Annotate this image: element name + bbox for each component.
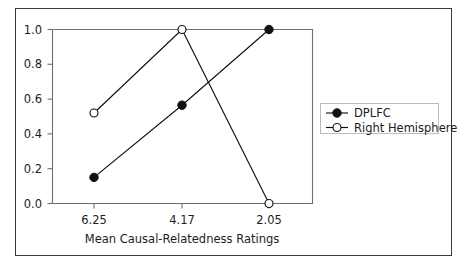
y-tick-label-4: 0.4 xyxy=(24,127,42,141)
y-tick-label-5: 0.2 xyxy=(24,162,42,176)
series-right-hemisphere-point-2 xyxy=(178,26,186,34)
x-axis-tick-labels: 6.25 4.17 2.05 xyxy=(81,213,282,227)
legend-filled-circle-icon xyxy=(333,109,341,117)
y-axis-ticks xyxy=(48,30,53,204)
series-dplfc-point-1 xyxy=(90,173,98,181)
series-right-hemisphere xyxy=(90,26,273,208)
y-tick-label-2: 0.8 xyxy=(24,57,42,71)
legend-label-dplfc: DPLFC xyxy=(354,106,391,120)
y-tick-label-1: 1.0 xyxy=(24,23,42,37)
series-dplfc-point-2 xyxy=(178,101,186,109)
series-right-hemisphere-point-3 xyxy=(265,200,273,208)
chart-legend[interactable]: DPLFC Right Hemisphere xyxy=(321,104,458,135)
x-tick-label-3: 2.05 xyxy=(256,213,282,227)
figure-container: 1.0 0.8 0.6 0.4 0.2 0.0 6.25 4.17 2.05 M… xyxy=(0,0,469,267)
series-right-hemisphere-point-1 xyxy=(90,109,98,117)
series-right-hemisphere-line xyxy=(94,30,269,204)
line-chart: 1.0 0.8 0.6 0.4 0.2 0.0 6.25 4.17 2.05 M… xyxy=(0,0,469,267)
legend-label-right-hemisphere: Right Hemisphere xyxy=(354,121,457,135)
x-axis-title: Mean Causal-Relatedness Ratings xyxy=(85,232,279,246)
legend-open-circle-icon xyxy=(333,124,341,132)
y-axis-tick-labels: 1.0 0.8 0.6 0.4 0.2 0.0 xyxy=(24,23,42,211)
x-tick-label-2: 4.17 xyxy=(169,213,195,227)
y-tick-label-6: 0.0 xyxy=(24,197,42,211)
series-dplfc-point-3 xyxy=(265,25,273,33)
y-tick-label-3: 0.6 xyxy=(24,92,42,106)
x-axis-ticks xyxy=(94,204,269,209)
x-tick-label-1: 6.25 xyxy=(81,213,107,227)
